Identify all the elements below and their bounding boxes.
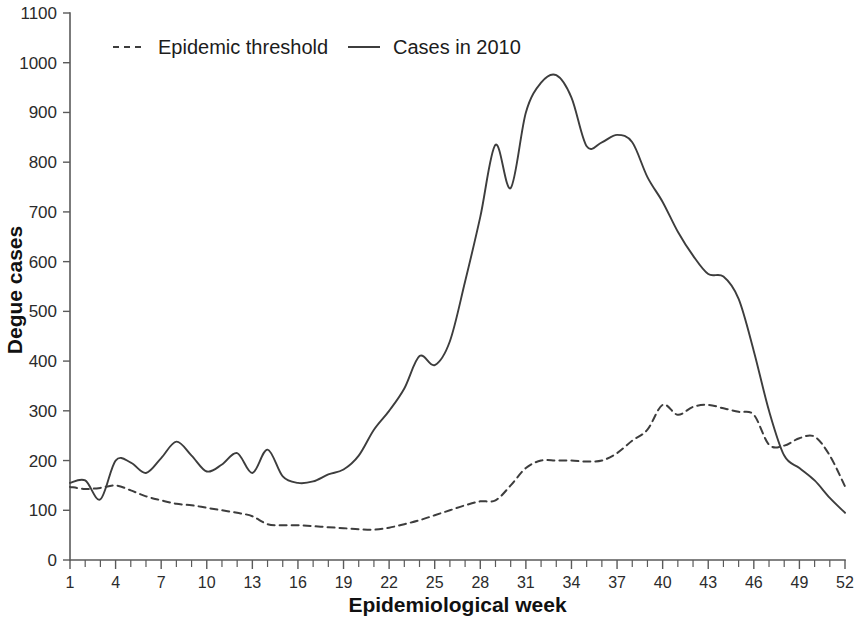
dengue-cases-line-chart: 010020030040050060070080090010001100 147…: [0, 0, 863, 623]
x-tick-label: 22: [380, 574, 398, 591]
legend-label-epidemic-threshold: Epidemic threshold: [158, 36, 328, 58]
x-axis-ticks: 147101316192225283134374043464952: [66, 560, 854, 591]
y-tick-label: 1100: [20, 4, 57, 23]
x-tick-label: 10: [198, 574, 216, 591]
y-tick-label: 800: [29, 153, 57, 172]
y-axis-title: Degue cases: [3, 226, 26, 354]
x-tick-label: 13: [243, 574, 261, 591]
x-tick-label: 37: [608, 574, 626, 591]
data-series-group: [70, 74, 845, 529]
x-tick-label: 34: [563, 574, 581, 591]
x-tick-label: 49: [791, 574, 809, 591]
y-tick-label: 1000: [19, 54, 57, 73]
y-tick-label: 200: [29, 452, 57, 471]
x-tick-label: 31: [517, 574, 535, 591]
y-tick-label: 400: [29, 352, 57, 371]
x-tick-label: 52: [836, 574, 854, 591]
x-tick-label: 46: [745, 574, 763, 591]
y-tick-label: 700: [29, 203, 57, 222]
chart-legend: Epidemic thresholdCases in 2010: [113, 36, 521, 58]
x-tick-label: 43: [699, 574, 717, 591]
y-tick-label: 900: [29, 103, 57, 122]
x-tick-label: 1: [66, 574, 75, 591]
y-tick-label: 100: [29, 501, 57, 520]
y-axis-ticks: 010020030040050060070080090010001100: [19, 4, 70, 570]
x-tick-label: 7: [157, 574, 166, 591]
series-line-cases-2010: [70, 74, 845, 512]
legend-label-cases-2010: Cases in 2010: [393, 36, 521, 58]
x-tick-label: 4: [111, 574, 120, 591]
x-tick-label: 40: [654, 574, 672, 591]
x-tick-label: 28: [471, 574, 489, 591]
x-axis-title: Epidemiological week: [348, 593, 567, 616]
x-tick-label: 25: [426, 574, 444, 591]
y-tick-label: 600: [29, 253, 57, 272]
x-tick-label: 16: [289, 574, 307, 591]
y-tick-label: 500: [29, 302, 57, 321]
x-tick-label: 19: [335, 574, 353, 591]
y-tick-label: 0: [48, 551, 57, 570]
chart-canvas: 010020030040050060070080090010001100 147…: [0, 0, 863, 623]
series-line-epidemic-threshold: [70, 405, 845, 530]
y-tick-label: 300: [29, 402, 57, 421]
